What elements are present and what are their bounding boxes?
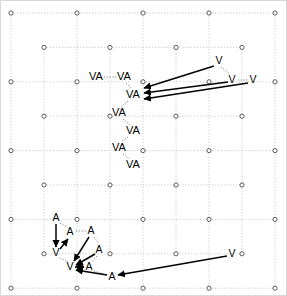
lattice-node	[42, 45, 46, 49]
lattice-node	[108, 45, 112, 49]
lattice-node	[42, 114, 46, 118]
lattice-node	[9, 149, 13, 153]
lattice-node	[42, 252, 46, 256]
label-a2: A	[66, 225, 73, 237]
lattice-node	[9, 80, 13, 84]
lattice-node	[75, 217, 79, 221]
lattice-node	[240, 183, 244, 187]
lattice-node	[240, 45, 244, 49]
lattice-node	[75, 286, 79, 290]
lattice-node	[174, 252, 178, 256]
label-v6: V	[228, 247, 235, 259]
lattice-node	[273, 217, 277, 221]
lattice-node	[9, 11, 13, 15]
label-v2: V	[228, 73, 235, 85]
lattice-node	[174, 183, 178, 187]
lattice-node	[207, 217, 211, 221]
lattice-node	[207, 149, 211, 153]
label-va7: VA	[126, 158, 141, 170]
label-a4: A	[95, 243, 102, 255]
label-va1: VA	[89, 70, 104, 82]
lattice-node	[240, 252, 244, 256]
label-a5: A	[85, 260, 92, 272]
label-va2: VA	[117, 70, 132, 82]
lattice-node	[9, 217, 13, 221]
label-v3: V	[249, 73, 256, 85]
lattice-node	[273, 286, 277, 290]
lattice-node	[141, 149, 145, 153]
lattice-node	[207, 80, 211, 84]
label-va3: VA	[126, 88, 141, 100]
label-v4: V	[52, 246, 59, 258]
lattice-node	[174, 114, 178, 118]
label-a1: A	[52, 211, 59, 223]
lattice-node	[141, 11, 145, 15]
lattice-diagram: VAVAVAVAVAVAVAVVVAAAVAVAAV	[0, 0, 287, 296]
label-v1: V	[215, 54, 222, 66]
label-va5: VA	[126, 124, 141, 136]
figure-border	[1, 1, 287, 296]
lattice-node	[273, 11, 277, 15]
label-va4: VA	[112, 106, 127, 118]
lattice-node	[273, 149, 277, 153]
lattice-node	[141, 217, 145, 221]
lattice-node	[75, 11, 79, 15]
lattice-node	[207, 286, 211, 290]
lattice-node	[108, 183, 112, 187]
label-v5: V	[66, 260, 73, 272]
lattice-node	[273, 80, 277, 84]
label-va6: VA	[112, 141, 127, 153]
lattice-node	[75, 80, 79, 84]
lattice-node	[141, 80, 145, 84]
lattice-node	[141, 286, 145, 290]
lattice-node	[42, 183, 46, 187]
label-a6: A	[108, 270, 115, 282]
lattice-node	[75, 149, 79, 153]
lattice-node	[207, 11, 211, 15]
label-a3: A	[87, 224, 94, 236]
lattice-node	[108, 252, 112, 256]
lattice-node	[240, 114, 244, 118]
lattice-node	[174, 45, 178, 49]
figure-canvas: VAVAVAVAVAVAVAVVVAAAVAVAAV	[0, 0, 287, 296]
lattice-node	[9, 286, 13, 290]
